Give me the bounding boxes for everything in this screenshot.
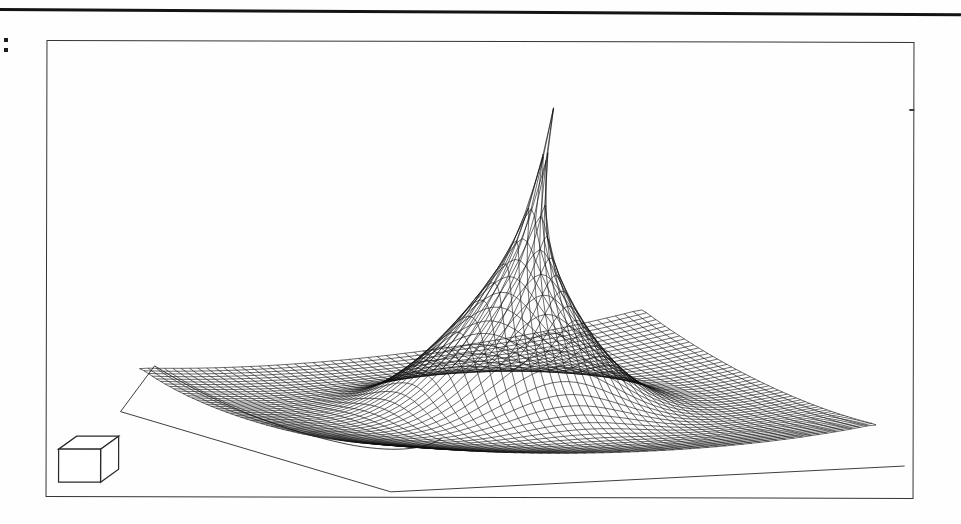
colon-artifact	[4, 38, 9, 54]
mesh-gridline	[313, 381, 810, 439]
mesh-gridline	[506, 338, 752, 443]
mesh-gridline	[377, 154, 631, 452]
wireframe-cube-icon	[56, 433, 122, 485]
figure-frame	[46, 40, 915, 499]
colon-dot-upper	[4, 38, 8, 42]
base-plane-edge	[121, 366, 155, 412]
mesh-gridline	[478, 343, 726, 446]
wireframe-mesh	[139, 107, 876, 454]
mesh-gridline	[256, 156, 760, 424]
cube-face-front	[59, 449, 101, 482]
mesh-gridline	[251, 208, 756, 422]
surface-wireframe-plot	[47, 41, 914, 498]
colon-dot-lower	[4, 48, 8, 52]
scanned-page	[0, 0, 961, 524]
horizontal-rule	[0, 8, 961, 16]
mesh-gridline	[261, 107, 765, 425]
